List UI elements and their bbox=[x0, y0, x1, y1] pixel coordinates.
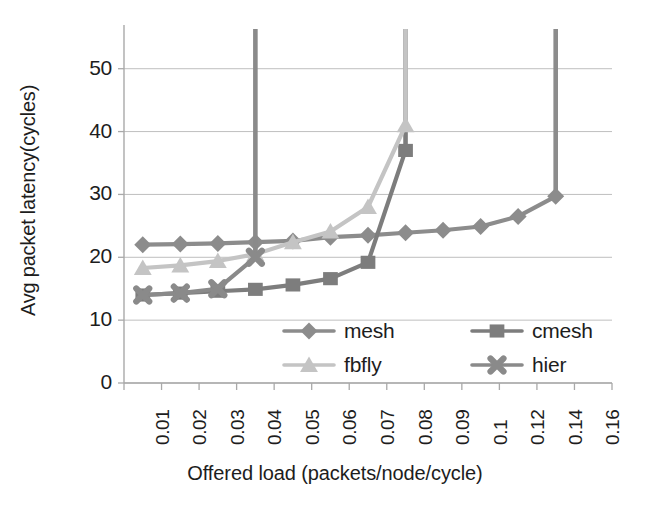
x-tick-label-0.09: 0.09 bbox=[452, 410, 474, 445]
legend-label-cmesh: cmesh bbox=[532, 319, 593, 343]
legend-marker-x-icon bbox=[470, 354, 524, 376]
y-tick-label-50: 50 bbox=[56, 56, 112, 80]
x-tick-label-0.06: 0.06 bbox=[339, 410, 361, 445]
marker-triangle bbox=[359, 199, 377, 214]
legend-marker-diamond-icon bbox=[282, 320, 336, 342]
x-tick-label-0.16: 0.16 bbox=[602, 410, 624, 445]
x-tick-label-0.14: 0.14 bbox=[565, 410, 587, 445]
y-tick-label-10: 10 bbox=[56, 307, 112, 331]
x-tick-label-0.01: 0.01 bbox=[152, 410, 174, 445]
legend-marker-triangle-icon bbox=[282, 354, 336, 376]
legend-label-fbfly: fbfly bbox=[344, 353, 382, 377]
x-tick-label-0.12: 0.12 bbox=[527, 410, 549, 445]
marker-square bbox=[323, 272, 338, 285]
marker-diamond bbox=[472, 218, 489, 235]
x-axis-title: Offered load (packets/node/cycle) bbox=[0, 462, 670, 485]
legend-item-fbfly[interactable]: fbfly bbox=[282, 352, 382, 378]
chart-figure: Avg packet latency(cycles) Offered load … bbox=[0, 0, 670, 509]
legend-item-mesh[interactable]: mesh bbox=[282, 318, 395, 344]
marker-square bbox=[248, 283, 263, 296]
legend-item-hier[interactable]: hier bbox=[470, 352, 566, 378]
y-axis-title-text: Avg packet latency(cycles) bbox=[18, 84, 41, 315]
x-tick-label-0.03: 0.03 bbox=[227, 410, 249, 445]
marker-square bbox=[398, 144, 413, 157]
series-cmesh bbox=[135, 29, 412, 302]
series-line-cmesh bbox=[143, 150, 406, 295]
legend-label-hier: hier bbox=[532, 353, 566, 377]
y-tick-label-40: 40 bbox=[56, 119, 112, 143]
y-axis-title: Avg packet latency(cycles) bbox=[6, 0, 52, 400]
legend-item-cmesh[interactable]: cmesh bbox=[470, 318, 593, 344]
marker-diamond bbox=[435, 222, 452, 239]
marker-square bbox=[361, 256, 376, 269]
x-tick-label-0.08: 0.08 bbox=[415, 410, 437, 445]
marker-diamond bbox=[172, 236, 189, 253]
y-tick-label-0: 0 bbox=[56, 370, 112, 394]
series-hier bbox=[136, 29, 262, 302]
marker-diamond bbox=[301, 323, 318, 340]
marker-diamond bbox=[547, 188, 564, 205]
marker-diamond bbox=[510, 208, 527, 225]
y-tick-label-30: 30 bbox=[56, 181, 112, 205]
marker-diamond bbox=[209, 235, 226, 252]
legend-label-mesh: mesh bbox=[344, 319, 395, 343]
marker-diamond bbox=[134, 236, 151, 253]
data-series-group bbox=[134, 29, 564, 302]
x-tick-label-0.02: 0.02 bbox=[189, 410, 211, 445]
x-tick-label-0.1: 0.1 bbox=[490, 420, 512, 445]
legend-marker-square-icon bbox=[470, 320, 524, 342]
x-tick-label-0.07: 0.07 bbox=[377, 410, 399, 445]
x-tick-label-0.04: 0.04 bbox=[264, 410, 286, 445]
marker-square bbox=[286, 278, 301, 291]
x-tick-label-0.05: 0.05 bbox=[302, 410, 324, 445]
y-tick-label-20: 20 bbox=[56, 244, 112, 268]
marker-triangle bbox=[397, 117, 415, 132]
marker-diamond bbox=[397, 224, 414, 241]
marker-square bbox=[490, 324, 505, 337]
